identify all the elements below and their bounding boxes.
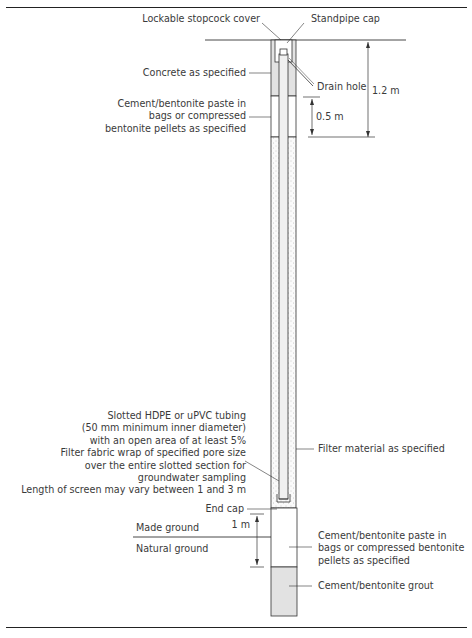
label-drain-hole: Drain hole	[317, 81, 367, 93]
label-screen-notes: Slotted HDPE or uPVC tubing (50 mm minim…	[21, 410, 246, 497]
lower-seal-zone	[271, 508, 297, 567]
label-concrete: Concrete as specified	[143, 67, 246, 79]
label-made-ground: Made ground	[136, 522, 199, 534]
label-dim-seal: 0.5 m	[316, 111, 344, 123]
label-natural-ground: Natural ground	[136, 543, 208, 555]
label-upper-seal: Cement/bentonite paste in bags or compre…	[105, 98, 246, 135]
label-dim-total: 1.2 m	[372, 85, 400, 97]
label-grout: Cement/bentonite grout	[318, 580, 434, 592]
label-stopcock-cover: Lockable stopcock cover	[142, 13, 260, 25]
dimension-1m	[250, 514, 264, 567]
label-dim-bottom: 1 m	[232, 519, 251, 531]
standpipe-tube	[279, 54, 288, 499]
standpipe-cap	[280, 49, 287, 55]
leader-stopcock	[262, 23, 281, 40]
label-end-cap: End cap	[205, 503, 244, 515]
grout-zone	[271, 567, 297, 616]
standpipe	[277, 49, 290, 502]
label-standpipe-cap: Standpipe cap	[311, 13, 380, 25]
label-filter: Filter material as specified	[318, 443, 445, 455]
label-lower-seal: Cement/bentonite paste in bags or compre…	[318, 530, 464, 567]
